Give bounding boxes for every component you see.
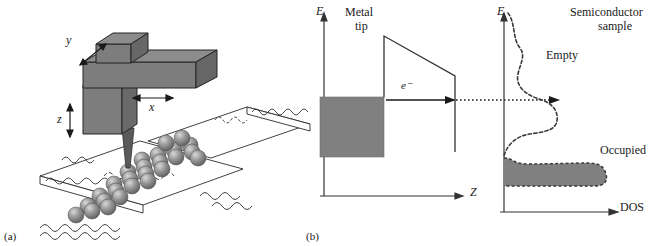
atom: [190, 150, 206, 166]
atom: [100, 199, 116, 215]
atom: [174, 130, 190, 146]
atom: [124, 178, 140, 194]
surface-ripple-right-front-2: [212, 203, 252, 210]
z-axis-arrowhead-up: [67, 104, 73, 111]
figure-root: y x z (a) E Metal tip e⁻ Z E Semiconduct…: [0, 0, 656, 246]
atom: [84, 203, 100, 219]
semiconductor-sample-label-line1: Semiconductor: [570, 5, 643, 20]
semiconductor-sample-label-line2: sample: [598, 19, 632, 34]
atom: [140, 173, 156, 189]
atom: [168, 149, 184, 165]
metal-tip-filled-states: [320, 97, 384, 157]
panel-b-diagram: [316, 0, 656, 246]
occupied-states-label: Occupied: [600, 143, 646, 158]
piezo-beam-front: [83, 62, 196, 88]
metal-tip-label-line1: Metal: [345, 5, 373, 20]
panel-b-tag: (b): [306, 230, 319, 242]
x-axis-arrowhead-right: [166, 95, 173, 101]
axis-label-x: x: [149, 100, 154, 115]
empty-states-dos-curve: [504, 13, 557, 156]
z-axis-arrowhead: [455, 193, 463, 199]
dos-axis-arrowhead: [609, 209, 618, 215]
electron-label: e⁻: [401, 79, 412, 92]
occupied-states-fill: [504, 158, 607, 186]
atom: [154, 161, 170, 177]
axis-label-z: z: [57, 112, 62, 127]
tunnel-barrier-outline: [384, 36, 455, 152]
energy-axis-right-label: E: [497, 4, 504, 19]
atom: [158, 135, 174, 151]
surface-ripple-front-lower-2: [40, 233, 120, 240]
panel-a-tag: (a): [4, 230, 16, 242]
dos-axis-label: DOS: [620, 200, 644, 215]
piezo-column-front: [83, 85, 122, 134]
surface-ripple-front-lower: [40, 225, 120, 232]
z-axis-label: Z: [470, 185, 477, 200]
metal-tip-label-line2: tip: [355, 19, 368, 34]
surface-ripple-right-front: [200, 193, 240, 200]
panel-a-diagram: [0, 0, 330, 246]
empty-states-label: Empty: [546, 48, 578, 63]
axis-label-y: y: [66, 33, 71, 48]
atom: [68, 207, 84, 223]
z-axis-arrowhead-down: [67, 130, 73, 137]
electron-arrowhead-dotted: [549, 96, 560, 104]
energy-axis-left-label: E: [316, 4, 323, 19]
